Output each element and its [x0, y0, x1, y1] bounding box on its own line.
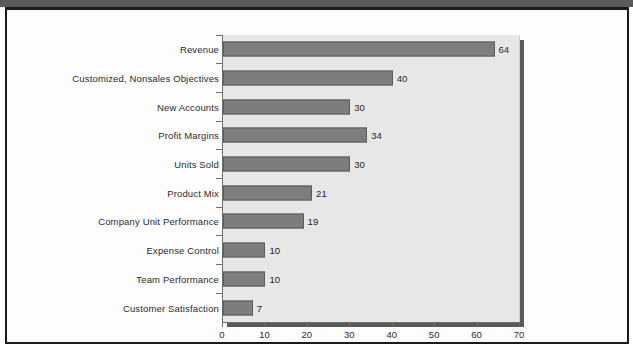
bar-row: Profit Margins34	[7, 121, 633, 150]
page-frame: Revenue64Customized, Nonsales Objectives…	[5, 7, 629, 344]
bar	[223, 214, 304, 229]
bar-value-label: 64	[499, 44, 510, 55]
y-axis-tick	[216, 264, 223, 265]
bar-rows: Revenue64Customized, Nonsales Objectives…	[7, 35, 633, 322]
y-axis-tick	[216, 35, 223, 36]
x-axis-tick-mark	[222, 322, 223, 327]
bar	[223, 300, 253, 315]
x-axis-tick-label: 30	[344, 329, 355, 340]
bar-value-label: 34	[371, 130, 382, 141]
x-axis-tick-label: 60	[471, 329, 482, 340]
x-axis-tick-mark	[434, 322, 435, 327]
bar-row: Team Performance10	[7, 265, 633, 294]
category-label: Profit Margins	[158, 130, 219, 141]
x-axis-tick-label: 70	[514, 329, 525, 340]
x-axis-ticks: 010203040506070	[7, 322, 633, 350]
bar-value-label: 30	[354, 101, 365, 112]
x-axis-tick-label: 20	[302, 329, 313, 340]
x-axis-tick-mark	[519, 322, 520, 327]
y-axis-tick	[216, 293, 223, 294]
x-axis-tick-label: 0	[219, 329, 224, 340]
bar	[223, 185, 312, 200]
category-label: Product Mix	[167, 187, 219, 198]
category-label: Customer Satisfaction	[123, 302, 219, 313]
y-axis-tick	[216, 121, 223, 122]
x-axis-tick-mark	[307, 322, 308, 327]
bar-row: Revenue64	[7, 35, 633, 64]
bar-row: Company Unit Performance19	[7, 207, 633, 236]
bar	[223, 128, 367, 143]
x-axis-tick-mark	[349, 322, 350, 327]
category-label: Revenue	[180, 44, 219, 55]
bar-value-label: 7	[257, 302, 262, 313]
category-label: Units Sold	[174, 159, 219, 170]
category-label: Company Unit Performance	[98, 216, 219, 227]
bar-value-label: 21	[316, 187, 327, 198]
bar-row: New Accounts30	[7, 92, 633, 121]
y-axis-tick	[216, 178, 223, 179]
y-axis-tick	[216, 92, 223, 93]
category-label: Team Performance	[136, 273, 219, 284]
y-axis-tick	[216, 207, 223, 208]
x-axis-tick-label: 10	[259, 329, 270, 340]
bar-row: Customized, Nonsales Objectives40	[7, 64, 633, 93]
bar	[223, 42, 495, 57]
scan-top-band	[0, 0, 633, 7]
bar-row: Units Sold30	[7, 150, 633, 179]
x-axis-tick-mark	[264, 322, 265, 327]
bar-value-label: 10	[269, 245, 280, 256]
bar-value-label: 40	[397, 73, 408, 84]
bar-row: Product Mix21	[7, 178, 633, 207]
bar	[223, 157, 350, 172]
category-label: Expense Control	[147, 245, 219, 256]
bar-value-label: 19	[308, 216, 319, 227]
bar	[223, 271, 265, 286]
bar-value-label: 30	[354, 159, 365, 170]
x-axis-tick-mark	[392, 322, 393, 327]
bar-row: Expense Control10	[7, 236, 633, 265]
x-axis-tick-label: 50	[429, 329, 440, 340]
y-axis-tick	[216, 63, 223, 64]
x-axis-tick-mark	[477, 322, 478, 327]
bar-chart-figure: Revenue64Customized, Nonsales Objectives…	[0, 0, 633, 350]
category-label: Customized, Nonsales Objectives	[72, 73, 219, 84]
x-axis-tick-label: 40	[386, 329, 397, 340]
bar	[223, 99, 350, 114]
y-axis-tick	[216, 149, 223, 150]
bar-row: Customer Satisfaction7	[7, 293, 633, 322]
bar	[223, 71, 393, 86]
bar	[223, 243, 265, 258]
y-axis-tick	[216, 235, 223, 236]
bar-value-label: 10	[269, 273, 280, 284]
category-label: New Accounts	[157, 101, 219, 112]
